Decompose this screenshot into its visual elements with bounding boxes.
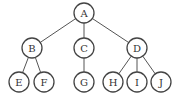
node-label: F xyxy=(41,77,48,88)
node-label: I xyxy=(135,77,139,88)
edge-B-E xyxy=(23,57,29,72)
node-G: G xyxy=(74,72,94,92)
tree-nodes: ABCDEFGHIJ xyxy=(9,3,171,92)
node-label: E xyxy=(15,77,22,88)
node-E: E xyxy=(9,72,29,92)
node-F: F xyxy=(34,72,54,92)
node-I: I xyxy=(127,72,147,92)
edge-A-B xyxy=(40,19,75,43)
node-D: D xyxy=(127,38,147,58)
edge-D-H xyxy=(119,56,131,74)
node-label: G xyxy=(80,77,88,88)
edge-D-J xyxy=(143,56,155,74)
node-label: B xyxy=(28,43,35,54)
node-H: H xyxy=(103,72,123,92)
tree-diagram: ABCDEFGHIJ xyxy=(0,0,179,98)
node-label: J xyxy=(158,77,163,88)
node-label: D xyxy=(133,43,141,54)
edge-B-F xyxy=(35,57,40,72)
edge-A-D xyxy=(92,19,128,43)
node-C: C xyxy=(74,38,94,58)
node-A: A xyxy=(74,3,94,23)
node-B: B xyxy=(22,38,42,58)
node-label: C xyxy=(80,43,88,54)
node-J: J xyxy=(151,72,171,92)
node-label: A xyxy=(79,8,88,19)
node-label: H xyxy=(109,77,118,88)
